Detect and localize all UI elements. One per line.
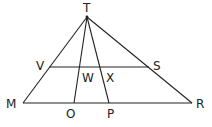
label-X: X bbox=[106, 71, 114, 85]
label-R: R bbox=[196, 97, 204, 111]
label-O: O bbox=[66, 107, 75, 121]
label-W: W bbox=[82, 71, 94, 85]
label-S: S bbox=[153, 59, 161, 73]
segment-TP bbox=[87, 17, 109, 103]
segment-TR bbox=[87, 17, 192, 103]
geometry-diagram: T V S M R O P W X bbox=[0, 0, 212, 127]
label-P: P bbox=[107, 107, 114, 121]
label-V: V bbox=[36, 59, 45, 73]
vertex-T-dot bbox=[86, 16, 89, 19]
label-T: T bbox=[82, 1, 91, 15]
segment-TM bbox=[23, 17, 87, 103]
segment-TO bbox=[74, 17, 87, 103]
label-M: M bbox=[6, 97, 16, 111]
